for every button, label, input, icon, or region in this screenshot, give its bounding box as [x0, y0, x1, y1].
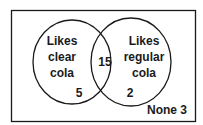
- right-only-count: 2: [127, 86, 134, 100]
- venn-diagram: Likes clear cola 5 15 Likes regular cola…: [0, 0, 203, 125]
- intersection-count: 15: [98, 55, 112, 69]
- left-label-line1: Likes: [47, 34, 78, 48]
- right-label-line1: Likes: [129, 34, 160, 48]
- right-label-line3: cola: [132, 66, 156, 80]
- left-label-line2: clear: [48, 50, 76, 64]
- left-label-line3: cola: [50, 66, 74, 80]
- right-label-line2: regular: [124, 50, 165, 64]
- none-count-label: None 3: [147, 103, 187, 117]
- left-only-count: 5: [76, 86, 83, 100]
